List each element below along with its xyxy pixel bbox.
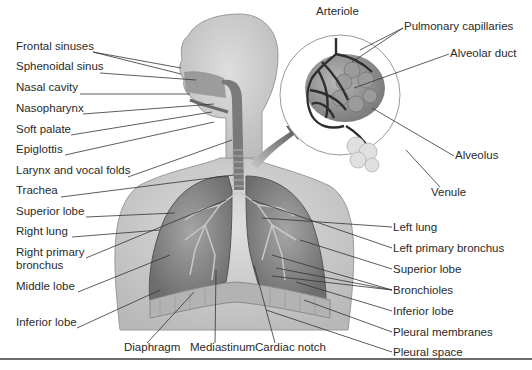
label-arteriole: Arteriole [316,5,359,18]
label-left-primary-bronchus: Left primary bronchus [393,242,504,255]
label-sphenoidal-sinus: Sphenoidal sinus [16,60,104,73]
label-nasopharynx: Nasopharynx [16,102,84,115]
label-nasal-cavity: Nasal cavity [16,81,78,94]
label-mediastinum: Mediastinum [190,341,255,354]
bottom-rule [0,358,532,360]
label-right-lung: Right lung [16,225,68,238]
label-alveolar-duct: Alveolar duct [450,47,516,60]
label-pleural-membranes: Pleural membranes [393,326,493,339]
label-inferior-lobe-right: Inferior lobe [16,316,77,329]
label-cardiac-notch: Cardiac notch [255,341,326,354]
label-right-primary: Right primary [16,246,84,259]
label-left-lung: Left lung [393,221,437,234]
label-bronchus: bronchus [16,259,63,272]
label-epiglottis: Epiglottis [16,143,63,156]
label-larynx-vocal-folds: Larynx and vocal folds [16,164,130,177]
label-inferior-lobe-left: Inferior lobe [393,305,454,318]
label-superior-lobe-right: Superior lobe [16,205,84,218]
label-trachea: Trachea [16,184,58,197]
label-bronchioles: Bronchioles [393,284,453,297]
respiratory-diagram: Frontal sinuses Sphenoidal sinus Nasal c… [0,0,532,370]
label-alveolus: Alveolus [455,149,498,162]
label-superior-lobe-left: Superior lobe [393,263,461,276]
label-frontal-sinuses: Frontal sinuses [16,40,94,53]
label-venule: Venule [431,186,466,199]
label-diaphragm: Diaphragm [124,341,180,354]
label-middle-lobe: Middle lobe [16,280,75,293]
label-soft-palate: Soft palate [16,123,71,136]
label-pulmonary-capillaries: Pulmonary capillaries [404,20,513,33]
alveoli-inset [280,35,400,172]
